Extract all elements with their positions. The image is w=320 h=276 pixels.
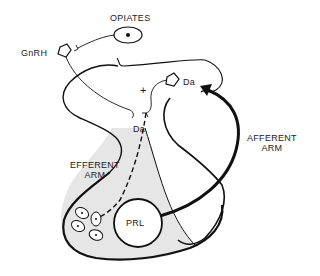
afferent-label-line2: ARM bbox=[247, 143, 297, 153]
dopamine-label-mid: Da bbox=[133, 124, 145, 134]
gnrh-neuron bbox=[58, 44, 71, 57]
prl-label: PRL bbox=[126, 218, 144, 228]
plus-sign: + bbox=[140, 85, 147, 95]
efferent-label-line1: EFFERENT bbox=[70, 160, 120, 170]
efferent-arm-label: EFFERENT ARM bbox=[70, 160, 120, 180]
efferent-label-line2: ARM bbox=[70, 170, 120, 180]
gnrh-label: GnRH bbox=[21, 48, 47, 58]
opiates-label: OPIATES bbox=[110, 13, 150, 23]
dopamine-label-top: Da bbox=[183, 77, 195, 87]
afferent-arm-label: AFFERENT ARM bbox=[247, 133, 297, 153]
afferent-arm-path bbox=[160, 90, 238, 216]
dopamine-neuron bbox=[166, 73, 179, 86]
afferent-label-line1: AFFERENT bbox=[247, 133, 297, 143]
